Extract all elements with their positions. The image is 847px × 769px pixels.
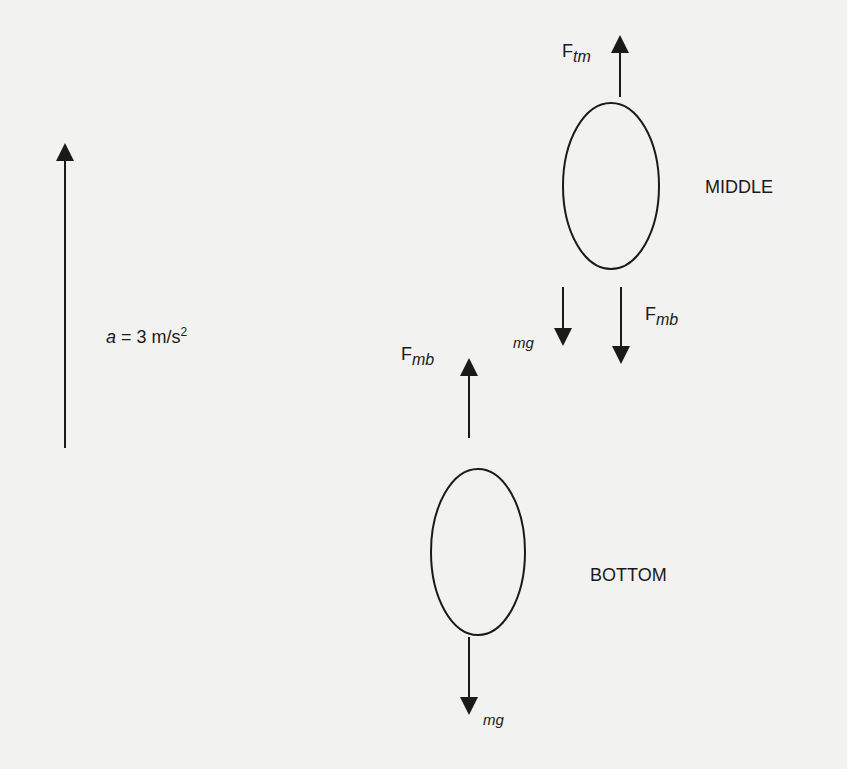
force-base: F — [562, 41, 573, 61]
free-body-diagram — [0, 0, 847, 769]
force-base: F — [645, 304, 656, 324]
force-label-fmb-bottom: Fmb — [401, 345, 434, 363]
force-subscript: mb — [412, 351, 434, 368]
force-subscript: tm — [573, 48, 591, 65]
force-label-fmb-middle: Fmb — [645, 305, 678, 323]
acceleration-value: = 3 m/s — [116, 327, 181, 347]
middle-body — [563, 103, 659, 269]
middle-label: MIDDLE — [705, 178, 773, 196]
force-label-mg-middle: mg — [513, 335, 534, 350]
bottom-body — [431, 469, 525, 635]
acceleration-symbol: a — [106, 327, 116, 347]
force-subscript: mb — [656, 311, 678, 328]
force-base: F — [401, 344, 412, 364]
force-label-ftm: Ftm — [562, 42, 591, 60]
force-label-mg-bottom: mg — [483, 712, 504, 727]
acceleration-exponent: 2 — [181, 325, 188, 339]
acceleration-label: a = 3 m/s2 — [106, 328, 187, 346]
bottom-label: BOTTOM — [590, 566, 667, 584]
